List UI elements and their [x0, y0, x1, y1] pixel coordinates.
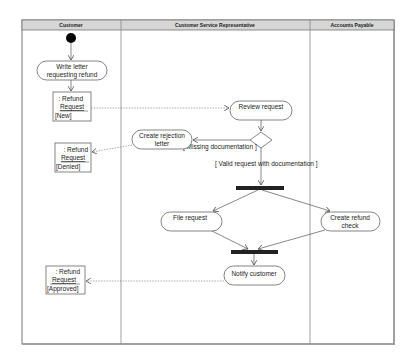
svg-text:Request: Request	[61, 154, 85, 162]
guard-valid-request: [ Valid request with documentation ]	[215, 160, 318, 168]
svg-text:File request: File request	[173, 214, 207, 222]
svg-text:Notify customer: Notify customer	[231, 270, 277, 278]
svg-text:Request: Request	[52, 276, 76, 284]
lane-ap-title: Accounts Payable	[330, 22, 373, 28]
lane-csr-title: Customer Service Representative	[175, 22, 255, 28]
svg-text:: Refund: : Refund	[58, 95, 83, 102]
svg-text:letter: letter	[155, 140, 170, 147]
svg-text:[Approved]: [Approved]	[47, 285, 79, 293]
svg-text:Create refund: Create refund	[330, 214, 370, 221]
initial-node	[66, 33, 76, 43]
lane-customer-title: Customer	[59, 22, 82, 28]
svg-text:Create rejection: Create rejection	[139, 132, 185, 140]
svg-text:Request: Request	[60, 103, 84, 111]
svg-text:: Refund: : Refund	[55, 268, 80, 275]
svg-text:Review request: Review request	[239, 103, 284, 111]
activity-diagram: Customer Customer Service Representative…	[0, 0, 416, 360]
fork-bar	[236, 186, 284, 190]
guard-missing-documentation: [ Missing documentation ]	[183, 143, 257, 151]
svg-text:check: check	[342, 222, 360, 229]
svg-text:[New]: [New]	[55, 112, 72, 120]
svg-text:requesting refund: requesting refund	[47, 71, 98, 79]
svg-text:: Refund: : Refund	[63, 146, 88, 153]
join-bar	[231, 250, 278, 254]
svg-text:[Denied]: [Denied]	[56, 163, 80, 171]
svg-text:Write letter: Write letter	[56, 63, 88, 70]
